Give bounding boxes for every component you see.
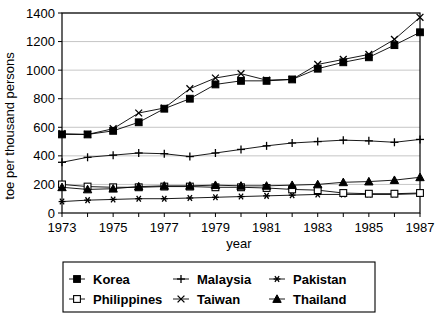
x-tick-label: 1983 [303,220,332,235]
x-tick-label: 1987 [406,220,435,235]
legend-item-label: Malaysia [197,272,252,287]
x-axis-title: year [226,236,252,251]
y-tick-label: 1200 [26,34,55,49]
y-tick-label: 400 [33,148,55,163]
legend-item-label: Thailand [293,292,347,307]
x-tick-label: 1985 [354,220,383,235]
legend-item-label: Taiwan [197,292,240,307]
chart-legend[interactable]: KoreaMalaysiaPakistanPhilippinesTaiwanTh… [63,262,375,312]
y-tick-label: 600 [33,120,55,135]
x-tick-label: 1973 [48,220,77,235]
y-tick-label: 200 [33,177,55,192]
legend-item-label: Philippines [93,292,162,307]
y-tick-label: 1000 [26,63,55,78]
legend-item-label: Korea [93,272,131,287]
legend-item-label: Pakistan [293,272,347,287]
y-axis-title: toe per thousand persons [2,52,17,200]
chart-figure: 0200400600800100012001400197319751977197… [0,0,437,321]
x-tick-label: 1981 [252,220,281,235]
line-chart-svg: 0200400600800100012001400197319751977197… [0,0,437,321]
y-tick-label: 1400 [26,6,55,21]
y-tick-label: 800 [33,91,55,106]
x-tick-label: 1979 [201,220,230,235]
y-tick-label: 0 [48,206,55,221]
x-tick-label: 1977 [150,220,179,235]
x-tick-label: 1975 [99,220,128,235]
